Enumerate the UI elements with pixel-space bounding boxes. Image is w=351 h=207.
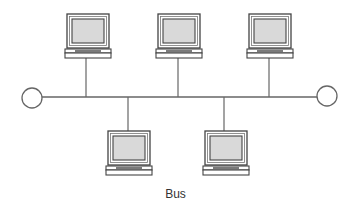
left-terminator-icon [22, 88, 42, 108]
right-terminator-icon [317, 86, 337, 106]
computer-top-1-icon [65, 14, 111, 58]
computer-top-2-icon [156, 14, 202, 58]
bus-topology-diagram [0, 0, 351, 207]
diagram-caption: Bus [0, 187, 351, 201]
computer-top-3-icon [247, 14, 293, 58]
computer-bottom-1-icon [106, 131, 152, 175]
computer-bottom-2-icon [203, 131, 249, 175]
